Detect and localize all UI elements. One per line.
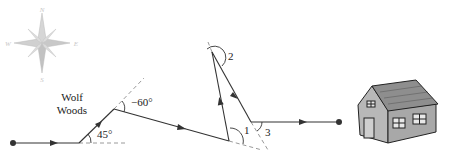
compass-rose-icon: N S W E <box>5 6 79 84</box>
start-point <box>10 140 16 146</box>
arrow-icon <box>177 124 186 130</box>
path-diagram: N S W E Wolf Woods <box>0 0 452 158</box>
arrow-icon <box>299 119 307 125</box>
compass-west-label: W <box>5 40 12 48</box>
house-icon <box>358 80 438 143</box>
compass-south-label: S <box>40 76 44 84</box>
arrow-icon <box>216 97 223 106</box>
angle-1-label: 1 <box>244 124 250 136</box>
angle-45-label: 45° <box>97 128 112 140</box>
end-point <box>336 119 342 125</box>
angle-3-label: 3 <box>265 126 271 138</box>
compass-north-label: N <box>39 6 45 14</box>
angle-2-label: 2 <box>228 50 234 62</box>
wolf-woods-label-line2: Woods <box>57 104 87 116</box>
arrow-icon <box>50 140 58 146</box>
wolf-woods-label-line1: Wolf <box>61 91 83 103</box>
angle-neg60-label: −60° <box>131 96 153 108</box>
compass-east-label: E <box>73 40 79 48</box>
